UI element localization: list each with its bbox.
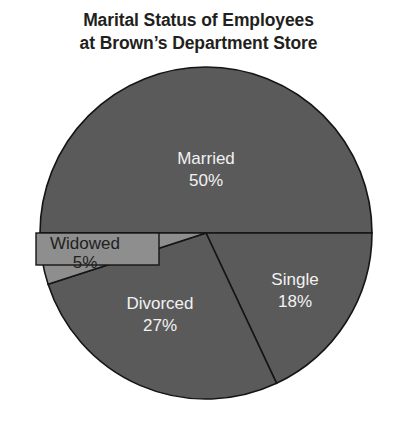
slice-value-divorced: 27% xyxy=(143,316,177,335)
pie-chart-graphic: Married 50% Single 18% Divorced 27% Wido… xyxy=(0,0,397,437)
slice-value-widowed: 5% xyxy=(73,253,98,272)
slice-value-married: 50% xyxy=(189,171,223,190)
slice-label-married: Married xyxy=(177,149,235,168)
slice-label-divorced: Divorced xyxy=(126,294,193,313)
slice-label-widowed: Widowed xyxy=(50,234,120,253)
slice-value-single: 18% xyxy=(278,292,312,311)
pie-chart-figure: Marital Status of Employees at Brown’s D… xyxy=(0,0,397,437)
slice-label-single: Single xyxy=(271,270,318,289)
